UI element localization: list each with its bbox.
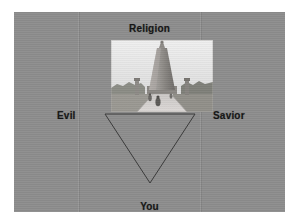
label-you: You	[14, 201, 285, 212]
monument-photograph	[111, 40, 213, 112]
slide-panel: Religion	[14, 12, 285, 212]
slide-canvas: Religion	[0, 0, 298, 223]
scan-seam	[79, 12, 80, 212]
monument-photograph-image	[111, 40, 213, 112]
label-religion: Religion	[14, 23, 285, 34]
label-evil: Evil	[57, 110, 76, 121]
label-savior: Savior	[213, 110, 245, 121]
